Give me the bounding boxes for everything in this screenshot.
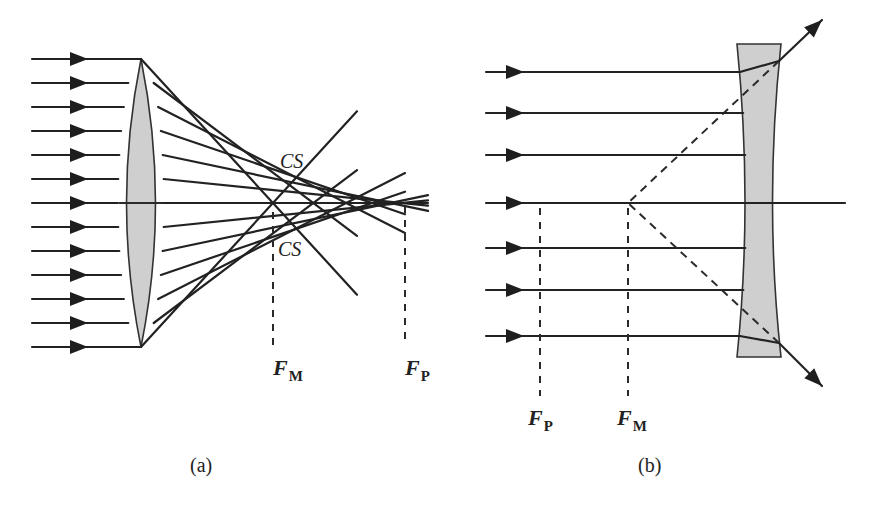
optics-figure: CS CS FM FP (a) FP FM (b) bbox=[0, 0, 871, 508]
arrow-icon bbox=[506, 196, 524, 210]
arrow-icon bbox=[506, 65, 524, 79]
panel-a-converging-lens: CS CS FM FP (a) bbox=[32, 52, 430, 477]
arrow-icon bbox=[70, 52, 88, 66]
arrow-icon bbox=[70, 340, 88, 354]
caption-b: (b) bbox=[638, 454, 661, 477]
arrow-icon bbox=[70, 292, 88, 306]
refracted-rays bbox=[141, 59, 428, 347]
arrow-icon bbox=[70, 148, 88, 162]
arrow-icon bbox=[506, 241, 524, 255]
panel-b-diverging-lens: FP FM (b) bbox=[486, 20, 845, 477]
arrow-icon bbox=[506, 106, 524, 120]
arrow-icon bbox=[70, 196, 88, 210]
refracted-ray bbox=[161, 131, 405, 214]
refracted-ray bbox=[141, 59, 357, 295]
arrow-icon bbox=[506, 329, 524, 343]
arrow-icon bbox=[70, 244, 88, 258]
caption-a: (a) bbox=[190, 454, 212, 477]
label-f-marginal-b: FM bbox=[616, 405, 647, 434]
arrow-icon bbox=[506, 148, 524, 162]
arrow-icon bbox=[506, 283, 524, 297]
arrow-icon bbox=[70, 76, 88, 90]
arrow-icon bbox=[70, 172, 88, 186]
arrow-icon bbox=[70, 220, 88, 234]
arrow-icon bbox=[70, 268, 88, 282]
arrow-icon bbox=[70, 316, 88, 330]
label-f-paraxial-a: FP bbox=[404, 355, 430, 384]
label-f-paraxial-b: FP bbox=[527, 405, 553, 434]
rays bbox=[486, 20, 845, 386]
label-f-marginal-a: FM bbox=[272, 355, 303, 384]
arrow-icon bbox=[70, 100, 88, 114]
caustic-label-top: CS bbox=[280, 150, 303, 172]
refracted-ray bbox=[161, 192, 405, 275]
arrow-icon bbox=[70, 124, 88, 138]
refracted-ray bbox=[141, 111, 357, 347]
caustic-label-bottom: CS bbox=[278, 238, 301, 260]
